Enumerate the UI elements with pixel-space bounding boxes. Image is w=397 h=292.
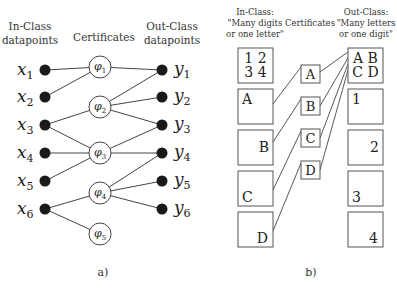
box-text: 3 4 (244, 64, 266, 80)
in-node-label: x3 (17, 114, 34, 137)
edge (273, 99, 301, 142)
in-node-label: x5 (17, 170, 34, 193)
in-node-label: x1 (17, 59, 34, 82)
out-node-label: y1 (173, 58, 191, 81)
in-node-dot (40, 204, 51, 215)
nodes: x1x2x3x4x5x6φ1φ2φ3φ4φ5y1y2y3y4y5y6 (17, 56, 191, 245)
in-node-dot (40, 92, 51, 103)
edge (320, 64, 348, 138)
panel-a: In-Class datapoints Certificates Out-Cla… (2, 20, 200, 279)
certificate-label: C (306, 131, 316, 146)
panel-b: In-Class: "Many digits or one letter" Ce… (226, 7, 395, 279)
out-node-dot (157, 120, 168, 131)
box-text: 3 (352, 189, 361, 205)
box-text: 4 (369, 230, 378, 246)
out-node-dot (157, 65, 168, 76)
edge (273, 163, 301, 231)
certificate-label: A (305, 67, 316, 82)
box-text: A (241, 91, 253, 107)
in-node-dot (40, 120, 51, 131)
out-node-label: y2 (173, 85, 191, 108)
caption-b: b) (305, 266, 316, 279)
edge (273, 67, 301, 104)
caption-a: a) (98, 266, 109, 279)
certificates-header: Certificates (73, 31, 135, 43)
out-class-header-line3: or one digit" (339, 29, 393, 39)
in-node-label: x4 (17, 142, 34, 165)
in-node-dot (40, 148, 51, 159)
out-class-header-line2: datapoints (144, 34, 200, 46)
boxes: 1 23 4ABCDA BC D1234ABCD (238, 48, 383, 247)
in-node-label: x2 (17, 86, 34, 109)
edge (273, 131, 301, 190)
box-text: B (259, 139, 269, 155)
out-class-header-line2: "Many letters (337, 18, 396, 28)
edge (320, 70, 348, 170)
in-node-label: x6 (17, 198, 34, 221)
in-class-header-line3: or one letter" (226, 29, 284, 39)
box-text: C (242, 189, 253, 205)
out-node-dot (157, 148, 168, 159)
out-node-dot (157, 92, 168, 103)
edge (320, 52, 348, 72)
out-node-label: y4 (173, 141, 191, 164)
out-class-header-line1: Out-Class (146, 20, 198, 32)
certificate-label: B (306, 99, 316, 114)
box-text: 1 (352, 91, 361, 107)
in-class-header-line2: "Many digits (228, 18, 283, 28)
in-class-header-line2: datapoints (2, 34, 58, 46)
out-class-header-line1: Out-Class: (344, 7, 389, 17)
in-node-dot (40, 65, 51, 76)
in-class-header-line1: In-Class: (236, 7, 274, 17)
out-node-dot (157, 176, 168, 187)
out-node-dot (157, 204, 168, 215)
edge (320, 58, 348, 106)
box-text: 2 (370, 139, 379, 155)
box-text: D (257, 230, 268, 246)
box-text: C D (352, 64, 378, 80)
certificates-header: Certificates (285, 18, 335, 28)
out-node-label: y6 (173, 197, 191, 220)
out-node-label: y3 (173, 113, 191, 136)
out-node-label: y5 (173, 169, 191, 192)
certificate-label: D (305, 163, 315, 178)
in-node-dot (40, 176, 51, 187)
in-class-header-line1: In-Class (9, 20, 52, 32)
figure: In-Class datapoints Certificates Out-Cla… (0, 0, 397, 292)
